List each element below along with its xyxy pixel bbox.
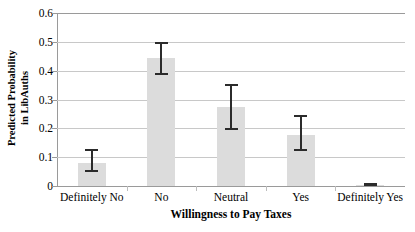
error-bar-cap-lower bbox=[225, 128, 238, 130]
y-axis-tick-label: 0.2 bbox=[23, 122, 53, 134]
error-bar-cap-lower bbox=[85, 170, 98, 172]
y-axis-tick-mark bbox=[52, 71, 57, 72]
y-axis-tick-label: 0.1 bbox=[23, 151, 53, 163]
error-bar bbox=[356, 183, 384, 186]
error-bar-cap-upper bbox=[225, 84, 238, 86]
y-axis-tick-mark bbox=[52, 13, 57, 14]
error-bar bbox=[147, 42, 175, 75]
error-bar bbox=[287, 115, 315, 150]
bar-chart: Predicted Probability in LibAuths 00.10.… bbox=[0, 0, 415, 232]
x-axis-tick-mark bbox=[196, 186, 197, 191]
x-axis-tick-label: Neutral bbox=[214, 191, 248, 203]
bar-series bbox=[57, 13, 405, 186]
y-axis-tick-mark bbox=[52, 100, 57, 101]
error-bar bbox=[78, 149, 106, 173]
y-axis-title-line-1: Predicted Probability bbox=[5, 49, 18, 145]
y-axis-tick-label: 0.4 bbox=[23, 65, 53, 77]
x-axis-tick-label: No bbox=[154, 191, 168, 203]
error-bar-cap-upper bbox=[294, 115, 307, 117]
x-axis-tick-label: Definitely No bbox=[60, 191, 124, 203]
x-axis-title: Willingness to Pay Taxes bbox=[57, 208, 405, 220]
error-bar-cap-upper bbox=[85, 149, 98, 151]
error-bar-stem bbox=[160, 42, 162, 75]
x-axis-tick-labels: Definitely NoNoNeutralYesDefinitely Yes bbox=[57, 191, 405, 207]
error-bar-cap-lower bbox=[155, 73, 168, 75]
y-axis-tick-mark bbox=[52, 128, 57, 129]
x-axis-tick-mark bbox=[127, 186, 128, 191]
error-bar-stem bbox=[230, 84, 232, 130]
y-axis-tick-label: 0 bbox=[23, 180, 53, 192]
y-axis-tick-label: 0.6 bbox=[23, 7, 53, 19]
error-bar-cap-lower bbox=[364, 184, 377, 186]
y-axis-tick-label: 0.3 bbox=[23, 94, 53, 106]
error-bar-stem bbox=[300, 115, 302, 150]
y-axis-tick-labels: 00.10.20.30.40.50.6 bbox=[20, 0, 53, 232]
y-axis-tick-mark bbox=[52, 157, 57, 158]
y-axis-tick-label: 0.5 bbox=[23, 36, 53, 48]
error-bar bbox=[217, 84, 245, 130]
gridline bbox=[57, 186, 405, 187]
error-bar-stem bbox=[91, 149, 93, 173]
y-axis-tick-mark bbox=[52, 42, 57, 43]
bar bbox=[147, 58, 175, 186]
y-axis-tick-mark bbox=[52, 186, 57, 187]
error-bar-cap-upper bbox=[155, 42, 168, 44]
x-axis-tick-mark bbox=[335, 186, 336, 191]
x-axis-tick-label: Yes bbox=[292, 191, 309, 203]
plot-area bbox=[57, 13, 405, 186]
error-bar-cap-lower bbox=[294, 149, 307, 151]
x-axis-tick-label: Definitely Yes bbox=[337, 191, 403, 203]
x-axis-tick-mark bbox=[266, 186, 267, 191]
